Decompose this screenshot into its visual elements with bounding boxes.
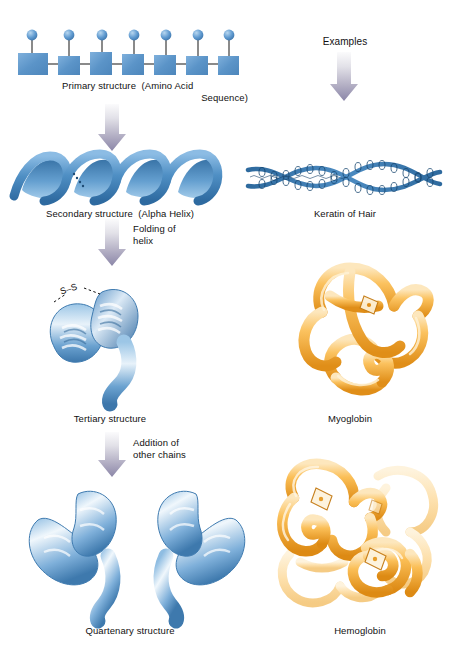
myoglobin-example-label: Myoglobin bbox=[280, 413, 420, 425]
arrow-tertiary-to-quaternary bbox=[98, 432, 126, 477]
keratin-graphic bbox=[246, 156, 442, 200]
alpha-helix-graphic bbox=[12, 146, 227, 208]
protein-structure-diagram: Primary structure (Amino Acid Sequence) … bbox=[0, 0, 464, 661]
quaternary-subunit bbox=[158, 491, 245, 621]
addition-of-chains-caption: Addition of other chains bbox=[133, 437, 253, 461]
myoglobin-graphic bbox=[286, 252, 436, 410]
hemoglobin-example-label: Hemoglobin bbox=[300, 625, 420, 637]
keratin-example-label: Keratin of Hair bbox=[250, 208, 440, 220]
arrow-examples bbox=[330, 52, 358, 101]
arrow-primary-to-secondary bbox=[98, 104, 126, 151]
tertiary-structure-label: Tertiary structure bbox=[20, 413, 200, 425]
hemoglobin-graphic bbox=[270, 458, 448, 620]
folding-of-helix-caption: Folding of helix bbox=[133, 223, 243, 247]
quaternary-structure-label: Quartenary structure bbox=[30, 625, 230, 637]
tertiary-tail bbox=[109, 342, 128, 404]
hemoglobin-subunit-front bbox=[282, 464, 417, 593]
quaternary-subunit bbox=[29, 491, 116, 621]
quaternary-structure-graphic bbox=[22, 478, 252, 623]
secondary-structure-label: Secondary structure (Alpha Helix) bbox=[10, 208, 230, 220]
myoglobin-backbone bbox=[304, 268, 428, 390]
arrow-secondary-to-tertiary bbox=[98, 219, 126, 266]
